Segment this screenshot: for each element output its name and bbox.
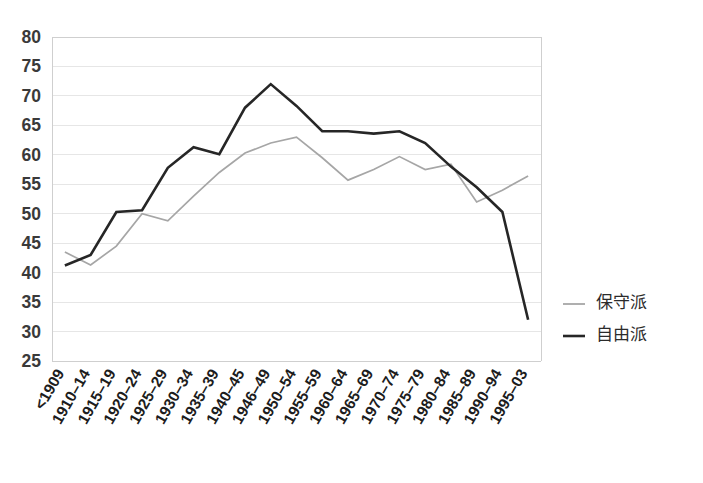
chart-canvas: 807570656055504540353025<19091910–141915… (0, 0, 703, 483)
y-axis-tick-40: 40 (22, 263, 42, 283)
y-axis-tick-55: 55 (22, 174, 42, 194)
series-group (65, 84, 528, 320)
y-axis-tick-80: 80 (22, 27, 42, 47)
y-axis-tick-65: 65 (22, 115, 42, 135)
series-line-1 (65, 84, 528, 320)
y-axis-tick-25: 25 (22, 351, 42, 371)
legend-label-1: 自由派 (596, 325, 647, 344)
series-line-0 (65, 137, 528, 265)
legend-label-0: 保守派 (596, 293, 647, 312)
axis-lines (52, 37, 541, 361)
y-axis-tick-75: 75 (22, 56, 42, 76)
y-axis-tick-30: 30 (22, 322, 42, 342)
x-axis-labels: <19091910–141915–191920–241925–291930–34… (31, 366, 531, 427)
y-axis-tick-45: 45 (22, 233, 42, 253)
y-axis-tick-50: 50 (22, 204, 42, 224)
legend: 保守派自由派 (563, 293, 647, 344)
y-axis-tick-35: 35 (22, 292, 42, 312)
line-chart: 807570656055504540353025<19091910–141915… (0, 0, 703, 483)
y-axis-tick-70: 70 (22, 86, 42, 106)
y-axis-tick-60: 60 (22, 145, 42, 165)
y-gridlines: 807570656055504540353025 (22, 27, 541, 371)
